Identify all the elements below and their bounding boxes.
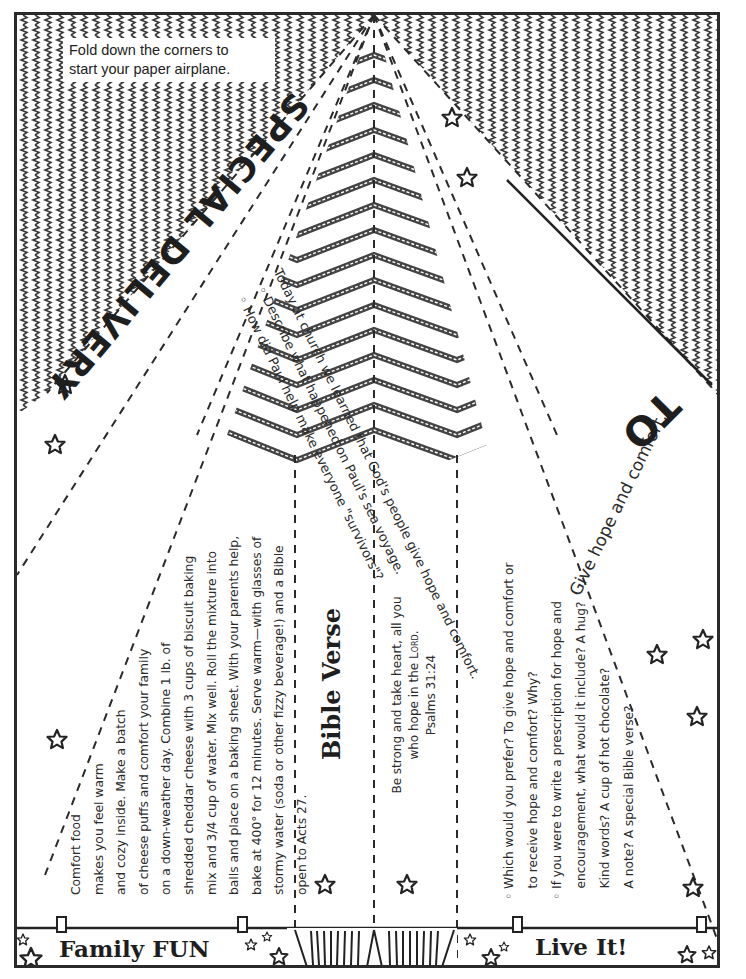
fold-instruction-line: Fold down the corners to — [69, 41, 269, 60]
live-it-line: ◦ If you were to write a prescription fo… — [545, 563, 569, 900]
recipe-line: Comfort food — [65, 536, 88, 895]
live-it-line: to receive hope and comfort? Why? — [521, 563, 545, 900]
bible-verse-title: Bible Verse — [317, 608, 346, 760]
recipe-line: open to Acts 27. — [291, 536, 314, 895]
live-it-line: ◦ Which would you prefer? To give hope a… — [497, 563, 521, 900]
fold-instruction-line: start your paper airplane. — [69, 60, 269, 79]
bible-verse-text: Be strong and take heart, all you who ho… — [389, 595, 440, 795]
live-it-line: encouragement, what would it include? A … — [569, 563, 593, 900]
recipe-line: and cozy inside. Make a batch — [110, 536, 133, 895]
live-it-line: Kind words? A cup of hot chocolate? — [593, 563, 617, 900]
verse-line: Be strong and take heart, all you — [389, 595, 406, 795]
recipe-line: mix and 3/4 cup of water. Mix well. Roll… — [201, 536, 224, 895]
verse-line: who hope in the Lord. — [406, 595, 423, 795]
fold-instruction: Fold down the corners to start your pape… — [63, 38, 275, 82]
live-it-line: A note? A special Bible verse? — [617, 563, 641, 900]
recipe-line: makes you feel warm — [88, 536, 111, 895]
recipe-line: on a down-weather day. Combine 1 lb. of — [155, 536, 178, 895]
recipe-line: balls and place on a baking sheet. With … — [223, 536, 246, 895]
recipe-line: of cheese puffs and comfort your family — [133, 536, 156, 895]
paper-airplane-sheet: Fold down the corners to start your pape… — [14, 12, 720, 968]
live-it-questions: ◦ Which would you prefer? To give hope a… — [497, 563, 641, 900]
recipe-line: shredded cheddar cheese with 3 cups of b… — [178, 536, 201, 895]
family-fun-label: Family FUN — [59, 935, 210, 962]
family-fun-recipe: Comfort food makes you feel warm and coz… — [65, 536, 314, 895]
recipe-line: stormy water (soda or other fizzy bevera… — [268, 536, 291, 895]
live-it-label: Live It! — [535, 933, 627, 960]
verse-reference: Psalms 31:24 — [423, 595, 440, 795]
recipe-line: bake at 400° for 12 minutes. Serve warm—… — [246, 536, 269, 895]
